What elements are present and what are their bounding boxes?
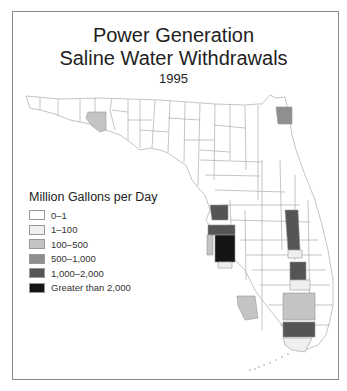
legend-item: 1–100 [29,223,158,238]
legend-label: 1,000–2,000 [51,268,104,279]
county-dade [283,338,312,352]
county-martin [290,280,310,290]
legend-item: Greater than 2,000 [29,281,158,296]
county-charlotte-lee [237,296,258,320]
legend-item: 500–1,000 [29,252,158,267]
county-palm-beach [283,293,315,320]
county-bay [86,112,106,132]
county-broward [283,322,315,337]
county-manatee [218,262,232,268]
legend-swatch [29,239,45,249]
county-indian-river [288,250,302,258]
legend: Million Gallons per Day 0–1 1–100 100–50… [29,190,158,295]
county-duval [276,107,292,124]
legend-swatch [29,254,45,264]
county-citrus [210,205,228,220]
legend-label: 500–1,000 [51,253,96,264]
legend-swatch [29,225,45,235]
legend-item: 1,000–2,000 [29,266,158,281]
legend-label: 100–500 [51,239,88,250]
legend-label: Greater than 2,000 [51,282,131,293]
legend-item: 0–1 [29,208,158,223]
legend-swatch [29,283,45,293]
county-st-lucie [290,262,306,280]
legend-label: 0–1 [51,210,67,221]
county-hillsborough [215,235,235,262]
county-pasco [208,225,235,235]
legend-item: 100–500 [29,237,158,252]
legend-label: 1–100 [51,224,77,235]
legend-swatch [29,268,45,278]
legend-title: Million Gallons per Day [29,190,158,204]
legend-swatch [29,210,45,220]
county-brevard [285,210,300,250]
county-pinellas [207,235,213,255]
